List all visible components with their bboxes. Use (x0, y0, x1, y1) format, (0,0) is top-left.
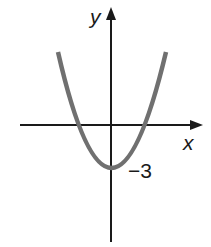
y-axis-label: y (88, 5, 102, 28)
x-axis-arrow-icon (190, 120, 203, 130)
parabola-graph: y x −3 (0, 0, 211, 247)
y-intercept-label: −3 (128, 159, 152, 182)
x-axis-label: x (182, 131, 195, 154)
y-axis-arrow-icon (106, 7, 116, 20)
